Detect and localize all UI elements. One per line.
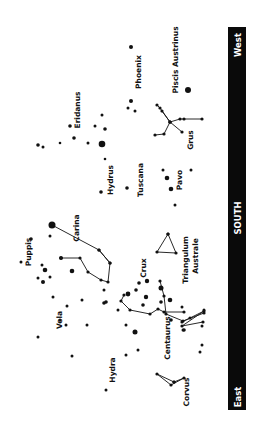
star — [97, 248, 100, 251]
star — [162, 169, 165, 172]
star — [169, 187, 174, 192]
star — [200, 117, 203, 120]
star — [104, 158, 107, 161]
star — [168, 298, 173, 303]
star — [128, 308, 131, 311]
direction-bar: West SOUTH East — [228, 27, 246, 410]
star — [155, 103, 158, 106]
star — [181, 306, 184, 309]
star — [101, 114, 104, 117]
star — [158, 106, 161, 109]
star — [78, 256, 81, 259]
star — [201, 320, 204, 323]
star — [203, 309, 206, 312]
star — [145, 279, 149, 283]
star — [182, 328, 186, 332]
constellation-label-hydra: Hydra — [108, 357, 117, 382]
constellation-label-grus: Grus — [186, 130, 195, 150]
star — [144, 295, 148, 299]
stars — [20, 45, 206, 392]
star — [72, 136, 76, 140]
star — [99, 141, 106, 148]
star — [168, 120, 171, 123]
star — [174, 251, 177, 254]
constellation-label-pavo: Pavo — [175, 170, 184, 190]
star — [134, 288, 138, 292]
constellation-label-tuscana: Tuscana — [136, 163, 145, 197]
star — [122, 293, 125, 296]
constellation-label-hydrus: Hydrus — [106, 164, 115, 195]
star — [49, 222, 56, 229]
star — [182, 117, 185, 120]
star — [141, 303, 145, 307]
star — [126, 292, 131, 297]
star — [166, 232, 169, 235]
star — [164, 312, 167, 315]
star — [125, 324, 128, 327]
star — [180, 324, 183, 327]
star — [182, 310, 185, 313]
constellation-line-carina — [52, 225, 110, 282]
star — [129, 99, 133, 103]
constellation-label-eridanus: Eridanus — [73, 91, 82, 129]
constellation-label-triangulum: Triangulum — [181, 236, 190, 284]
star — [169, 383, 172, 386]
star — [37, 277, 40, 280]
star — [99, 278, 102, 281]
star — [190, 169, 193, 172]
star — [153, 133, 156, 136]
star — [41, 280, 45, 284]
star — [42, 146, 45, 149]
star — [180, 130, 183, 133]
star — [108, 261, 111, 264]
constellation-label-carina: Carina — [72, 214, 81, 241]
star — [172, 380, 175, 383]
star — [180, 320, 183, 323]
star — [137, 349, 140, 352]
star — [52, 296, 55, 299]
star — [66, 305, 69, 308]
star — [188, 316, 191, 319]
constellation-line-carina-spur — [99, 250, 110, 263]
star — [41, 264, 44, 267]
star — [71, 355, 74, 358]
constellation-label-centaurus: Centaurus — [163, 316, 172, 360]
star — [133, 330, 138, 335]
star-chart: EridanusPhoenixPiscis AustrinusGrusHydru… — [0, 0, 256, 438]
star — [178, 117, 181, 120]
star — [70, 269, 75, 274]
star — [148, 312, 151, 315]
star — [43, 268, 48, 273]
star — [68, 124, 72, 128]
star — [185, 87, 191, 93]
star — [49, 235, 52, 238]
star — [104, 300, 108, 304]
constellation-label-corvus: Corvus — [182, 377, 191, 407]
constellation-label-australe: Australe — [191, 238, 200, 274]
star — [117, 309, 120, 312]
star — [162, 294, 165, 297]
constellation-label-vela: Vela — [55, 311, 64, 329]
star — [155, 372, 158, 375]
constellation-line-triangulum-australe — [157, 234, 176, 253]
star — [105, 389, 108, 392]
constellation-line-corvus — [157, 374, 184, 385]
star — [199, 351, 202, 354]
star — [201, 344, 204, 347]
star — [125, 186, 129, 190]
star — [160, 109, 163, 112]
constellation-labels: EridanusPhoenixPiscis AustrinusGrusHydru… — [24, 26, 200, 407]
star — [94, 125, 97, 128]
star — [165, 176, 170, 181]
star — [86, 324, 89, 327]
star — [137, 281, 141, 285]
star — [59, 256, 63, 260]
star — [99, 190, 103, 194]
east-label: East — [233, 387, 243, 408]
star — [103, 127, 107, 131]
constellation-line-grus-c — [155, 122, 170, 135]
west-label: West — [233, 33, 243, 57]
constellation-label-crux: Crux — [139, 258, 148, 278]
constellation-label-piscis-austrinus: Piscis Austrinus — [171, 26, 180, 94]
star — [103, 289, 106, 292]
